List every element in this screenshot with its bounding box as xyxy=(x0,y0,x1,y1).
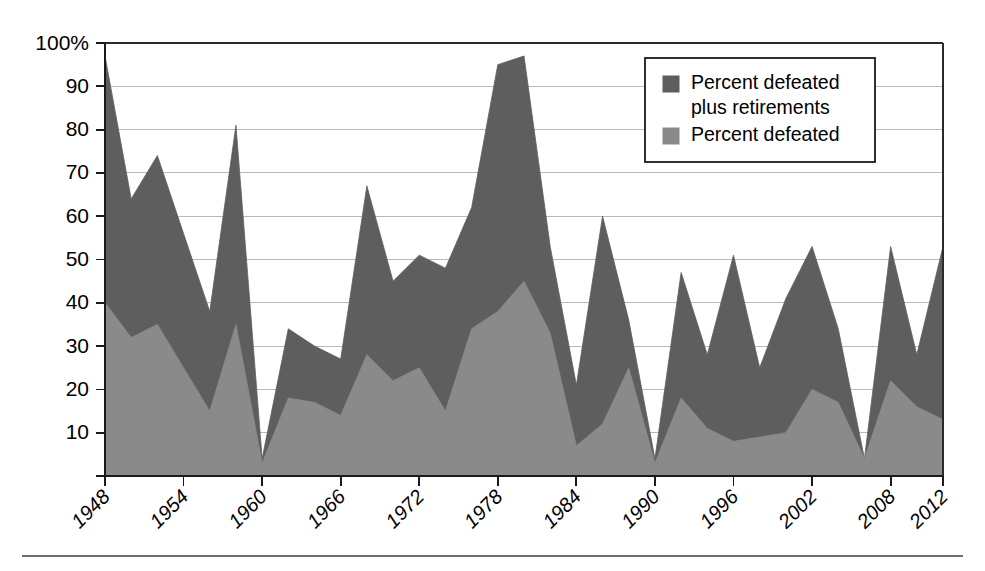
y-tick-label: 50 xyxy=(66,247,89,270)
legend-label-1: Percent defeated xyxy=(691,123,840,145)
y-tick-label: 40 xyxy=(66,290,89,313)
y-tick-label: 90 xyxy=(66,74,89,97)
x-tick-label: 2002 xyxy=(773,485,821,533)
legend-swatch-0 xyxy=(663,76,679,92)
y-tick-label: 10 xyxy=(66,420,89,443)
x-axis-ticks xyxy=(105,476,943,486)
y-tick-label: 20 xyxy=(66,377,89,400)
x-tick-label: 1948 xyxy=(67,485,114,532)
y-tick-label: 100% xyxy=(35,31,89,54)
chart-legend: Percent defeatedplus retirementsPercent … xyxy=(645,58,875,162)
legend-swatch-1 xyxy=(663,128,679,144)
x-tick-label: 1984 xyxy=(538,485,585,532)
y-tick-label: 30 xyxy=(66,334,89,357)
chart-figure: 1948195419601966197219781984199019962002… xyxy=(0,0,985,571)
x-tick-label: 2012 xyxy=(904,485,952,533)
legend-label-0: Percent defeated xyxy=(691,71,840,93)
legend-label-0-line2: plus retirements xyxy=(691,96,830,118)
x-tick-label: 1966 xyxy=(302,485,350,533)
y-tick-label: 70 xyxy=(66,160,89,183)
y-axis-labels: 102030405060708090100% xyxy=(35,31,89,444)
x-tick-label: 2008 xyxy=(852,485,900,533)
x-tick-label: 1960 xyxy=(224,485,271,532)
x-tick-label: 1972 xyxy=(381,485,428,532)
y-axis-ticks xyxy=(96,43,105,476)
x-tick-label: 1996 xyxy=(695,485,743,533)
area-chart: 1948195419601966197219781984199019962002… xyxy=(0,0,985,571)
y-tick-label: 80 xyxy=(66,117,89,140)
x-tick-label: 1990 xyxy=(617,485,664,532)
x-axis-labels: 1948195419601966197219781984199019962002… xyxy=(67,485,952,533)
y-tick-label: 60 xyxy=(66,204,89,227)
x-tick-label: 1978 xyxy=(460,485,507,532)
x-tick-label: 1954 xyxy=(145,485,192,532)
